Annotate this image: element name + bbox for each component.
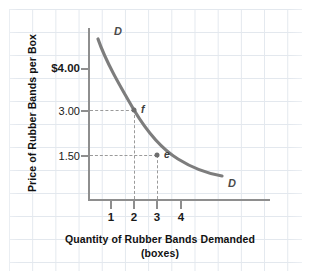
x-axis-title-line1: Quantity of Rubber Bands Demanded (60, 232, 260, 246)
x-axis-title-line2: (boxes) (60, 246, 260, 260)
data-point-label-e: e (164, 149, 170, 160)
curve-label-upper-d: D (114, 26, 122, 37)
curve-label-lower-d: D (228, 178, 236, 189)
demand-curve-figure: Price of Rubber Bands per Box $4.00 3.00… (0, 0, 309, 279)
data-point-f (132, 108, 137, 113)
y-axis-title: Price of Rubber Bands per Box (24, 28, 40, 198)
data-point-label-f: f (141, 104, 145, 115)
data-point-e (155, 153, 160, 158)
demand-curve-line (74, 14, 274, 224)
plot-area: $4.00 3.00 1.50 1 2 3 4 f e D D (88, 28, 216, 201)
x-axis-title: Quantity of Rubber Bands Demanded (boxes… (60, 232, 260, 260)
y-axis-title-text: Price of Rubber Bands per Box (26, 34, 38, 192)
